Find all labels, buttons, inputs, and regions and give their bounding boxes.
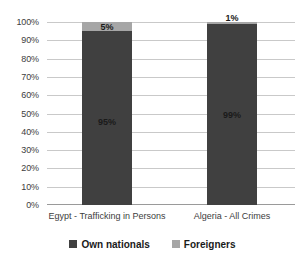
bar-egypt-trafficking-in-persons[interactable]: 95% 5% [82,22,132,205]
x-axis-category-labels: Egypt - Trafficking in Persons Algeria -… [47,208,295,228]
bar-label-foreigners: 1% [207,13,257,23]
bar-segment-foreigners[interactable]: 1% [207,22,257,24]
bar-segment-own-nationals[interactable]: 95% [82,31,132,205]
y-tick-label: 40% [21,127,39,137]
y-tick-label: 10% [21,182,39,192]
y-tick-label: 100% [16,17,39,27]
y-axis: 100% 90% 80% 70% 60% 50% 40% 30% 20% 10%… [0,22,43,205]
chart-legend: Own nationals Foreigners [0,234,305,254]
category-label-algeria: Algeria - All Crimes [165,211,299,221]
stacked-bar-chart: 100% 90% 80% 70% 60% 50% 40% 30% 20% 10%… [0,0,305,259]
y-tick-label: 20% [21,163,39,173]
legend-swatch-icon [69,240,77,248]
plot-area: 95% 5% 99% 1% [47,22,295,205]
bar-segment-own-nationals[interactable]: 99% [207,24,257,205]
bar-algeria-all-crimes[interactable]: 99% 1% [207,22,257,205]
legend-label: Foreigners [184,239,236,250]
bar-segment-foreigners[interactable]: 5% [82,22,132,31]
y-tick-label: 0% [26,200,39,210]
legend-swatch-icon [172,240,180,248]
legend-label: Own nationals [81,239,149,250]
bar-label-own-nationals: 95% [82,117,132,127]
y-tick-label: 80% [21,54,39,64]
category-label-egypt: Egypt - Trafficking in Persons [35,211,179,221]
y-tick-label: 60% [21,90,39,100]
bar-label-own-nationals: 99% [207,110,257,120]
y-tick-label: 70% [21,72,39,82]
legend-item-own-nationals[interactable]: Own nationals [69,239,149,250]
y-tick-label: 30% [21,145,39,155]
bar-label-foreigners: 5% [82,22,132,32]
y-tick-label: 50% [21,109,39,119]
y-tick-label: 90% [21,35,39,45]
legend-item-foreigners[interactable]: Foreigners [172,239,236,250]
